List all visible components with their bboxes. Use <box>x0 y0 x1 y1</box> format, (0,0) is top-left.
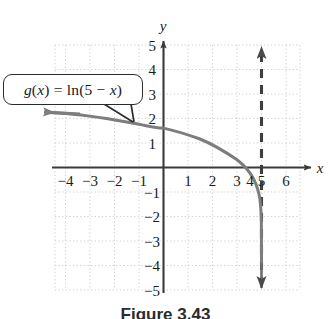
y-tick-5: 5 <box>149 38 157 54</box>
figure-caption: Figure 3.43 <box>0 306 331 319</box>
y-tick-4: 4 <box>149 62 157 78</box>
graph-plot: −4 −3 −2 −1 1 2 3 4 5 6 5 4 3 2 1 −1 −2 … <box>0 0 331 319</box>
y-axis-label: y <box>158 18 167 34</box>
y-tick--3: −3 <box>144 234 160 250</box>
y-tick-3: 3 <box>149 87 157 103</box>
x-tick-4: 4 <box>246 173 254 189</box>
x-tick--3: −3 <box>82 173 98 189</box>
x-tick-6: 6 <box>282 173 290 189</box>
curve-left-arrow <box>44 112 80 114</box>
y-tick--2: −2 <box>144 209 160 225</box>
y-tick--4: −4 <box>144 258 160 274</box>
x-tick-2: 2 <box>209 173 217 189</box>
function-label-text: g(x) = ln(5 − x) <box>24 81 122 99</box>
x-tick-3: 3 <box>233 173 241 189</box>
function-label-callout: g(x) = ln(5 − x) <box>3 74 143 105</box>
x-axis-label: x <box>316 160 324 176</box>
x-tick--2: −2 <box>107 173 123 189</box>
y-tick-1: 1 <box>149 136 157 152</box>
x-tick--4: −4 <box>58 173 74 189</box>
x-tick-1: 1 <box>184 173 192 189</box>
x-tick-5: 5 <box>258 173 266 189</box>
figure-container: −4 −3 −2 −1 1 2 3 4 5 6 5 4 3 2 1 −1 −2 … <box>0 0 331 319</box>
y-tick--5: −5 <box>144 283 160 299</box>
y-tick--1: −1 <box>144 185 160 201</box>
y-tick-2: 2 <box>149 111 157 127</box>
